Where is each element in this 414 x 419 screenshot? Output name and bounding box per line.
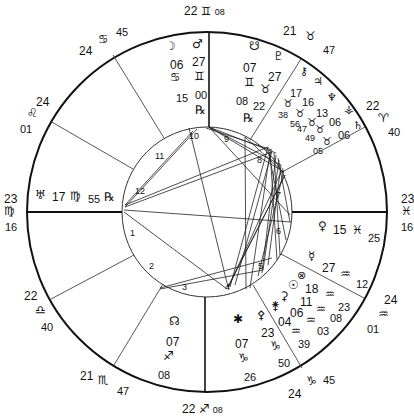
taurus-icon: ♉ [305,30,316,42]
aries-icon: ♈ [378,112,389,124]
chiron-icon: ⚷ [300,66,308,77]
house-number-2: 2 [149,262,154,271]
house-number-5: 5 [258,262,263,271]
libra-icon: ♎ [35,304,46,316]
scorpio-icon: ♏ [98,374,109,386]
gemini-icon: ♊ [194,70,205,82]
aquarius-icon: ♒ [325,289,335,300]
virgo-icon: ♍ [4,205,15,217]
cusp-mc: 22 ♊ 08 [184,5,225,17]
south-node-icon: ☋ [249,40,260,52]
aquarius-icon: ♒ [306,315,316,326]
cusp-ic: 22 ♐ 08 [182,403,223,415]
sagittarius-icon: ♐ [199,402,210,416]
cancer-icon: ♋ [98,33,109,45]
venus-icon: ♀ [318,220,327,232]
house-number-4: 4 [225,283,230,292]
taurus-icon: ♉ [322,136,332,147]
gemini-icon: ♊ [244,76,255,88]
taurus-icon: ♉ [283,98,293,109]
pisces-icon: ♓ [352,224,363,236]
capricorn-icon: ♑ [270,340,281,352]
house-number-10: 10 [189,132,199,141]
house-number-11: 11 [155,152,164,161]
house-number-3: 3 [182,283,187,292]
house-number-9: 9 [224,135,229,144]
aquarius-icon: ♒ [291,326,301,337]
sagittarius-icon: ♐ [163,350,174,362]
gemini-icon: ♊ [201,4,212,18]
retrograde-icon: ℞ [104,191,115,203]
taurus-icon: ♉ [295,108,305,119]
ceres-icon: ⚳ [280,290,289,302]
taurus-icon: ♉ [260,83,271,95]
leo-icon: ♌ [27,107,38,119]
house-number-8: 8 [257,156,262,165]
juno-icon: ⚵ [271,300,280,312]
pallas-icon: ⚴ [257,309,266,321]
mercury-icon: ☿ [308,250,315,262]
capricorn-icon: ♑ [306,375,317,387]
taurus-icon: ♉ [315,124,325,135]
aquarius-icon: ♒ [340,268,351,280]
north-node-icon: ☊ [169,315,180,327]
jupiter-icon: ♃ [313,76,323,87]
retrograde-icon: ℞ [195,104,206,116]
vesta-icon: ⚶ [344,104,353,115]
pluto-icon: ♇ [273,50,284,62]
pisces-icon: ♓ [401,205,412,217]
capricorn-icon: ♑ [238,352,249,364]
house-number-1: 1 [130,229,135,238]
cancer-icon: ♋ [170,71,181,83]
house-number-12: 12 [135,187,145,196]
moon-icon: ☽ [165,40,176,52]
mars-icon: ♂ [192,38,203,50]
virgo-icon: ♍ [70,190,81,202]
neptune-icon: ♆ [327,92,337,103]
aquarius-icon: ♒ [378,308,389,320]
sun-icon: ☉ [288,279,299,291]
house-number-7: 7 [276,191,281,200]
vertex-icon: ✱ [233,313,243,325]
retrograde-icon: ℞ [243,112,254,124]
aquarius-icon: ♒ [316,304,326,315]
house-number-6: 6 [276,227,281,236]
natal-chart-wheel [0,0,414,419]
saturn-icon: ♄ [353,120,363,131]
uranus-icon: ♅ [35,189,46,201]
